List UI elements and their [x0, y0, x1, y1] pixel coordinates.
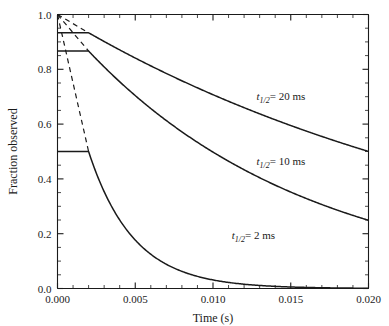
- x-tick-label: 0.010: [201, 293, 226, 305]
- y-tick-label: 0.8: [38, 63, 52, 75]
- svg-text:t1/2= 20 ms: t1/2= 20 ms: [257, 90, 306, 105]
- x-tick-label: 0.015: [278, 293, 303, 305]
- y-tick-label: 0.6: [38, 118, 52, 130]
- label-2ms: t1/2= 2 ms: [232, 229, 275, 244]
- y-tick-label: 1.0: [38, 9, 52, 21]
- svg-text:t1/2= 2 ms: t1/2= 2 ms: [232, 229, 275, 244]
- y-tick-label: 0.0: [38, 283, 52, 295]
- y-axis-title: Fraction observed: [6, 108, 20, 194]
- label-10ms: t1/2= 10 ms: [257, 155, 306, 170]
- curve-t_half_2ms: [58, 152, 369, 289]
- x-tick-label: 0.020: [356, 293, 381, 305]
- y-tick-label: 0.2: [38, 228, 52, 240]
- svg-text:t1/2= 10 ms: t1/2= 10 ms: [257, 155, 306, 170]
- curve-t_half_20ms: [58, 33, 369, 152]
- x-axis-title: Time (s): [193, 311, 234, 325]
- label-20ms: t1/2= 20 ms: [257, 90, 306, 105]
- chart-figure: 0.0000.0050.0100.0150.0200.00.20.40.60.8…: [0, 0, 389, 326]
- extrap-2ms: [58, 15, 89, 152]
- x-tick-label: 0.005: [123, 293, 148, 305]
- decay-curve-chart: 0.0000.0050.0100.0150.0200.00.20.40.60.8…: [0, 0, 389, 326]
- y-tick-label: 0.4: [38, 173, 52, 185]
